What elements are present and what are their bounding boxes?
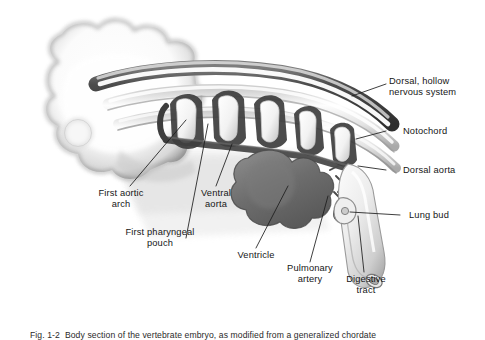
label-pulmonary-artery: Pulmonary artery [278,263,342,285]
optic-vesicle [65,120,92,147]
pharyngeal-pouch-1 [176,99,196,143]
label-notochord: Notochord [403,126,447,137]
label-dorsal-nervous-system: Dorsal, hollow nervous system [389,76,456,98]
label-dorsal-aorta: Dorsal aorta [403,165,455,176]
pharyngeal-pouch-4 [299,111,316,149]
pharyngeal-pouch-5 [335,127,350,161]
pharyngeal-pouch-3 [260,101,279,142]
label-lung-bud: Lung bud [409,210,449,221]
label-digestive-tract: Digestive tract [338,274,394,296]
pharyngeal-pouch-2 [218,96,238,141]
label-ventricle: Ventricle [227,250,285,261]
label-ventral-aorta: Ventral aorta [192,188,240,210]
label-first-aortic-arch: First aortic arch [84,188,158,210]
digestive-tract [339,164,385,290]
label-first-pharyngeal-pouch: First pharyngeal pouch [110,227,210,249]
lung-bud [334,198,356,224]
figure-caption: Fig. 1-2 Body section of the vertebrate … [30,330,376,340]
leader-dorsal-aorta [358,166,386,170]
